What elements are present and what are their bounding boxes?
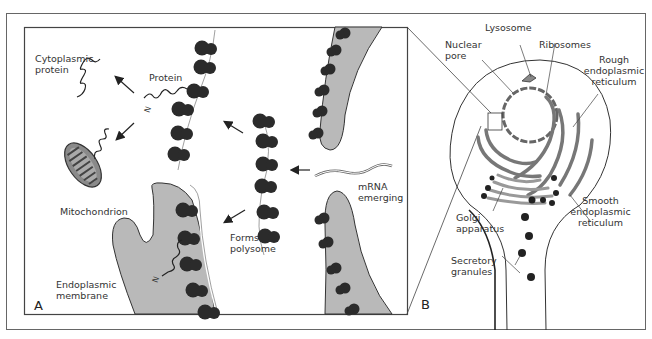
nuclear-pore-box bbox=[488, 113, 502, 130]
arrows-panel-a bbox=[116, 77, 310, 222]
mrna-strand bbox=[315, 164, 392, 176]
panel-letter-b: B bbox=[421, 297, 430, 312]
label-smooth-er: Smooth endoplasmic reticulum bbox=[563, 195, 638, 228]
label-rough-er: Rough endoplasmic reticulum bbox=[578, 54, 650, 87]
label-protein: Protein bbox=[149, 72, 182, 83]
label-nuclear-pore: Nuclear pore bbox=[445, 39, 482, 61]
nascent-protein-top bbox=[144, 87, 187, 98]
label-secretory-granules: Secretory granules bbox=[451, 255, 497, 277]
label-forms-polysome: Forms polysome bbox=[230, 232, 276, 254]
label-endoplasmic-membrane: Endoplasmic membrane bbox=[56, 279, 116, 301]
label-lysosome: Lysosome bbox=[485, 22, 532, 33]
label-cytoplasmic-protein: Cytoplasmic protein bbox=[35, 53, 93, 75]
nucleus bbox=[503, 88, 557, 142]
panel-letter-a: A bbox=[34, 298, 43, 313]
label-golgi-apparatus: Golgi apparatus bbox=[456, 212, 504, 234]
lysosome bbox=[522, 74, 536, 82]
mitochondrion bbox=[57, 136, 109, 193]
label-mitochondrion: Mitochondrion bbox=[60, 206, 128, 217]
label-mrna-emerging: mRNA emerging bbox=[358, 181, 403, 203]
mitochondrial-protein-squiggle bbox=[95, 129, 110, 159]
label-ribosomes: Ribosomes bbox=[539, 39, 591, 50]
er-membrane-bottom-right bbox=[325, 191, 392, 314]
figure: Cytoplasmic protein Protein N Mitochondr… bbox=[0, 0, 652, 339]
